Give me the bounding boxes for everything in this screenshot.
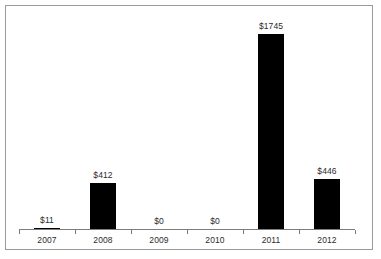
bar-group-2008[interactable]: $412: [75, 12, 131, 229]
x-axis-tick-0: [19, 230, 20, 234]
x-tick-label-2007: 2007: [19, 235, 75, 245]
x-axis-tick-1: [75, 230, 76, 234]
value-label-2012: $446: [299, 166, 355, 176]
bar-group-2010[interactable]: $0: [187, 12, 243, 229]
bar-group-2007[interactable]: $11: [19, 12, 75, 229]
x-axis-tick-2: [131, 230, 132, 234]
x-tick-label-2010: 2010: [187, 235, 243, 245]
x-axis-tick-4: [243, 230, 244, 234]
bar-chart: $11$412$0$0$1745$446 2007200820092010201…: [0, 0, 381, 259]
bar-group-2012[interactable]: $446: [299, 12, 355, 229]
value-label-2007: $11: [19, 215, 75, 225]
value-label-2011: $1745: [243, 21, 299, 31]
x-axis-tick-labels: 200720082009201020112012: [19, 235, 355, 249]
x-tick-label-2011: 2011: [243, 235, 299, 245]
value-label-2008: $412: [75, 170, 131, 180]
x-tick-label-2009: 2009: [131, 235, 187, 245]
x-axis-tick-3: [187, 230, 188, 234]
bar-2012[interactable]: [314, 179, 340, 229]
x-tick-label-2008: 2008: [75, 235, 131, 245]
value-label-2009: $0: [131, 216, 187, 226]
bar-group-2011[interactable]: $1745: [243, 12, 299, 229]
bar-group-2009[interactable]: $0: [131, 12, 187, 229]
x-tick-label-2012: 2012: [299, 235, 355, 245]
x-axis-tick-5: [299, 230, 300, 234]
bar-2008[interactable]: [90, 183, 116, 229]
x-axis-tick-end: [355, 230, 356, 234]
bar-2011[interactable]: [258, 34, 284, 229]
value-label-2010: $0: [187, 216, 243, 226]
plot-area: $11$412$0$0$1745$446: [19, 12, 355, 229]
